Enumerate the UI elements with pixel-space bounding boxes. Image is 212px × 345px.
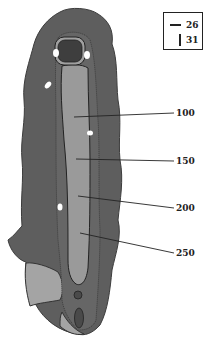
vertical-line-icon (179, 34, 181, 46)
bunker (53, 49, 59, 57)
bunker (87, 131, 93, 136)
legend-row-horizontal: 26 (164, 19, 204, 33)
distance-label-250: 250 (176, 248, 195, 258)
legend-box: 26 31 (163, 12, 203, 50)
golf-hole-map (0, 0, 212, 345)
horizontal-line-icon (170, 24, 181, 26)
bunker (84, 51, 90, 59)
small-tee (74, 291, 82, 299)
distance-label-150: 150 (176, 156, 195, 166)
legend-value: 31 (186, 35, 199, 45)
distance-label-200: 200 (176, 203, 195, 213)
bunker (58, 204, 63, 211)
distance-label-100: 100 (176, 108, 195, 118)
legend-row-vertical: 31 (164, 34, 204, 48)
tee-box (58, 40, 82, 62)
back-tee (75, 308, 84, 328)
legend-value: 26 (186, 20, 199, 30)
